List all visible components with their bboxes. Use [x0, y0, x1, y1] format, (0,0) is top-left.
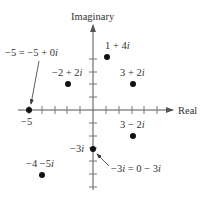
real-axis-label: Real — [178, 105, 197, 116]
point-marker — [130, 133, 136, 139]
point-label: −4 −5i — [26, 158, 54, 169]
point-marker — [65, 81, 71, 87]
imaginary-axis-label: Imaginary — [71, 11, 115, 22]
point-label: 3 − 2i — [120, 119, 145, 130]
point-neg5: −5 = −5 + 0i −5 — [5, 47, 58, 127]
point-marker — [130, 81, 136, 87]
point-label-neg3i-eq: −3i = 0 − 3i — [111, 163, 161, 174]
point-label: 1 + 4i — [105, 40, 130, 51]
point-3-plus-2i: 3 + 2i — [120, 67, 145, 87]
point-marker — [104, 54, 110, 60]
point-label: −2 + 2i — [52, 67, 83, 78]
point-marker — [90, 146, 96, 152]
point-neg2-plus-2i: −2 + 2i — [52, 67, 83, 87]
tick-label-neg5: −5 — [21, 116, 32, 127]
point-label-neg5-eq: −5 = −5 + 0i — [5, 47, 58, 58]
point-marker — [26, 107, 32, 113]
point-1-plus-4i: 1 + 4i — [104, 40, 130, 60]
point-neg4-minus-5i: −4 −5i — [26, 158, 54, 178]
point-3-minus-2i: 3 − 2i — [120, 119, 145, 139]
pointer-arrow-neg3i — [97, 154, 109, 166]
pointer-arrow-neg5 — [31, 61, 39, 104]
complex-plane-diagram: Real Imaginary −5 = −5 + 0i −5 −2 + 2i — [0, 0, 211, 201]
imaginary-axis: Imaginary — [71, 11, 115, 190]
real-axis: Real — [18, 105, 197, 116]
tick-label-neg3i: −3i — [70, 143, 84, 154]
point-neg3i: −3i −3i = 0 − 3i — [70, 143, 161, 174]
point-marker — [39, 172, 45, 178]
point-label: 3 + 2i — [120, 67, 145, 78]
